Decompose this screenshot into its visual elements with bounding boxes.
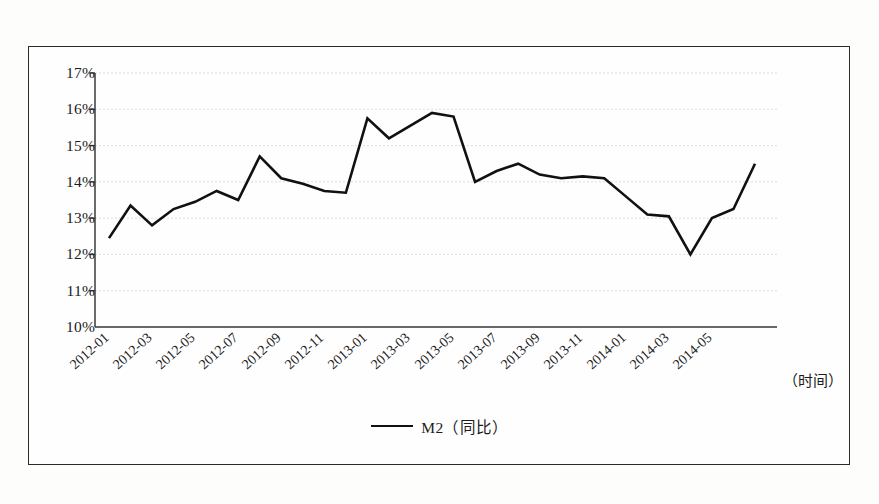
chart-legend: M2（同比）: [29, 415, 851, 437]
x-tick-label: 2012-01: [67, 330, 112, 373]
x-tick-label: 2013-09: [498, 330, 543, 373]
x-tick-label: 2014-05: [670, 330, 715, 373]
x-tick-label: 2012-09: [239, 330, 284, 373]
x-tick-label: 2014-03: [627, 330, 672, 373]
legend-line-swatch: [371, 425, 413, 427]
x-tick-label: 2012-11: [282, 330, 327, 373]
x-tick-label: 2013-07: [455, 330, 500, 373]
x-tick-label: 2013-11: [541, 330, 586, 373]
x-tick-label: 2013-01: [325, 330, 370, 373]
x-axis-tick-labels: 2012-012012-032012-052012-072012-092012-…: [29, 47, 851, 466]
x-tick-label: 2012-07: [196, 330, 241, 373]
x-tick-label: 2012-03: [110, 330, 155, 373]
legend-label-m2: M2（同比）: [421, 415, 508, 437]
x-tick-label: 2013-03: [368, 330, 413, 373]
x-tick-label: 2012-05: [153, 330, 198, 373]
page-background: 17%16%15%14%13%12%11%10% 2012-012012-032…: [0, 0, 879, 504]
x-tick-label: 2013-05: [412, 330, 457, 373]
x-tick-label: 2014-01: [584, 330, 629, 373]
figure-frame: 17%16%15%14%13%12%11%10% 2012-012012-032…: [28, 46, 850, 465]
x-axis-title: （时间）: [783, 369, 843, 390]
plot-area: 17%16%15%14%13%12%11%10% 2012-012012-032…: [29, 47, 851, 466]
